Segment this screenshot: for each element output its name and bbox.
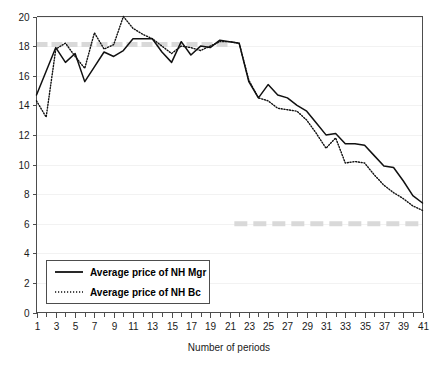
y-tick-label-12: 12 <box>18 130 30 141</box>
y-tick-label-16: 16 <box>18 71 30 82</box>
x-tick-label-7: 7 <box>92 321 98 332</box>
x-axis-title: Number of periods <box>188 342 270 353</box>
x-tick-label-9: 9 <box>112 321 118 332</box>
series-line-nh-bc <box>37 17 423 211</box>
y-tick-label-0: 0 <box>24 308 30 319</box>
x-tick-label-31: 31 <box>321 321 333 332</box>
x-axis-tick-labels: 1357911131517192123252729313335373941 <box>35 321 430 332</box>
x-tick-label-33: 33 <box>340 321 352 332</box>
x-tick-label-25: 25 <box>263 321 275 332</box>
x-tick-label-3: 3 <box>54 321 60 332</box>
line-chart: 02468101214161820 1357911131517192123252… <box>0 0 443 367</box>
x-tick-label-35: 35 <box>360 321 372 332</box>
x-tick-label-27: 27 <box>282 321 294 332</box>
x-tick-label-15: 15 <box>167 321 179 332</box>
x-tick-label-5: 5 <box>73 321 79 332</box>
x-tick-label-17: 17 <box>186 321 198 332</box>
x-tick-label-19: 19 <box>205 321 217 332</box>
x-tick-label-39: 39 <box>398 321 410 332</box>
legend-label-nh-bc: Average price of NH Bc <box>90 287 201 298</box>
y-tick-label-10: 10 <box>18 160 30 171</box>
x-axis-ticks <box>38 313 424 318</box>
x-tick-label-13: 13 <box>147 321 159 332</box>
reference-bands <box>37 45 423 224</box>
x-tick-label-21: 21 <box>225 321 237 332</box>
y-tick-label-2: 2 <box>24 278 30 289</box>
y-tick-label-20: 20 <box>18 12 30 23</box>
x-tick-label-11: 11 <box>128 321 139 332</box>
y-tick-label-8: 8 <box>24 189 30 200</box>
y-tick-label-6: 6 <box>24 219 30 230</box>
series-line-nh-mgr <box>37 39 423 203</box>
y-axis-tick-labels: 02468101214161820 <box>18 12 30 319</box>
y-tick-label-14: 14 <box>18 100 30 111</box>
y-tick-label-18: 18 <box>18 41 30 52</box>
x-tick-label-23: 23 <box>244 321 256 332</box>
x-tick-label-37: 37 <box>379 321 391 332</box>
x-tick-label-41: 41 <box>418 321 430 332</box>
x-tick-label-1: 1 <box>35 321 41 332</box>
legend-label-nh-mgr: Average price of NH Mgr <box>90 267 206 278</box>
x-tick-label-29: 29 <box>302 321 314 332</box>
gridlines <box>37 18 423 284</box>
y-axis-ticks <box>33 18 37 314</box>
chart-container: 02468101214161820 1357911131517192123252… <box>0 0 443 367</box>
chart-legend: Average price of NH Mgr Average price of… <box>47 261 210 304</box>
y-tick-label-4: 4 <box>24 248 30 259</box>
